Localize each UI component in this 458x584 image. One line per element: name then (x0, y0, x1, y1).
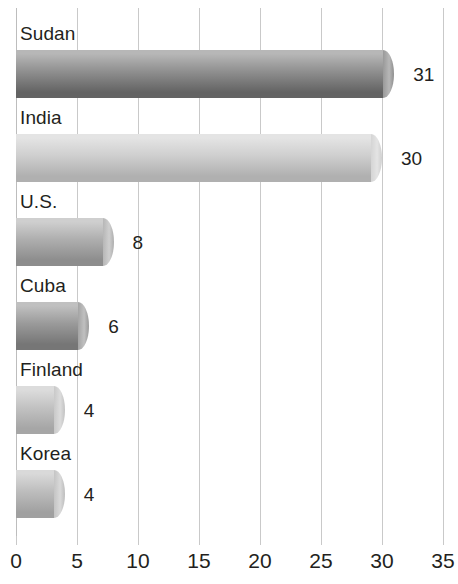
bar-body (16, 218, 103, 266)
x-tick-10 (138, 536, 139, 545)
bar-body (16, 302, 78, 350)
x-tick-20 (260, 536, 261, 545)
bar-india (16, 134, 393, 182)
plot-area: Sudan31India30U.S.8Cuba6Finland4Korea4 (0, 0, 458, 536)
bar-finland (16, 386, 76, 434)
bar-body (16, 50, 383, 98)
x-tick-label-0: 0 (10, 550, 22, 571)
x-tick-label-30: 30 (370, 550, 393, 571)
x-tick-5 (77, 536, 78, 545)
x-tick-label-15: 15 (187, 550, 210, 571)
category-label-us: U.S. (20, 192, 57, 211)
x-tick-label-5: 5 (71, 550, 83, 571)
category-label-india: India (20, 108, 62, 127)
bar-body (16, 134, 371, 182)
category-label-cuba: Cuba (20, 276, 66, 295)
category-label-korea: Korea (20, 444, 71, 463)
bar-cuba (16, 302, 100, 350)
gridline-35 (443, 8, 444, 536)
value-label-korea: 4 (84, 485, 95, 504)
x-tick-label-20: 20 (248, 550, 271, 571)
x-tick-30 (382, 536, 383, 545)
value-label-sudan: 31 (413, 65, 434, 84)
value-label-finland: 4 (84, 401, 95, 420)
value-label-india: 30 (401, 149, 422, 168)
value-label-us: 8 (133, 233, 144, 252)
x-tick-15 (199, 536, 200, 545)
x-tick-label-25: 25 (309, 550, 332, 571)
x-tick-label-10: 10 (126, 550, 149, 571)
x-tick-0 (16, 536, 17, 545)
x-tick-25 (321, 536, 322, 545)
category-label-finland: Finland (20, 360, 83, 379)
category-label-sudan: Sudan (20, 24, 75, 43)
value-label-cuba: 6 (108, 317, 119, 336)
x-axis: 05101520253035 (0, 536, 458, 584)
bar-us (16, 218, 125, 266)
bar-sudan (16, 50, 405, 98)
x-tick-35 (443, 536, 444, 545)
x-tick-label-35: 35 (431, 550, 454, 571)
bar-body (16, 470, 54, 518)
bar-body (16, 386, 54, 434)
bar-korea (16, 470, 76, 518)
bar-chart: Sudan31India30U.S.8Cuba6Finland4Korea4 0… (0, 0, 458, 584)
